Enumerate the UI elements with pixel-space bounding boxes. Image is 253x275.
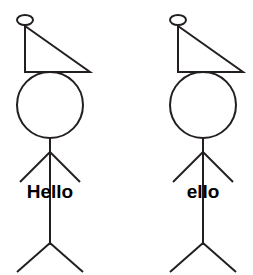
left-arm-line <box>20 152 50 182</box>
left-arm-line <box>173 152 203 182</box>
hat-knob-icon <box>17 15 33 25</box>
triangle-hat-icon <box>25 26 90 72</box>
stick-figure-right: ello <box>170 15 243 272</box>
triangle-hat-icon <box>178 26 243 72</box>
right-arm-line <box>50 152 80 182</box>
drawing-canvas: Hello ello <box>0 0 253 275</box>
right-arm-line <box>203 152 233 182</box>
head-circle <box>170 72 236 138</box>
hat-knob-icon <box>170 15 186 25</box>
stick-figure-illustration: Hello ello <box>0 0 253 275</box>
right-leg-line <box>203 243 236 272</box>
stick-figure-left: Hello <box>17 15 90 272</box>
left-leg-line <box>170 243 203 272</box>
head-circle <box>17 72 83 138</box>
figure-label-right: ello <box>187 181 220 202</box>
left-leg-line <box>17 243 50 272</box>
right-leg-line <box>50 243 83 272</box>
figure-label-left: Hello <box>27 181 73 202</box>
